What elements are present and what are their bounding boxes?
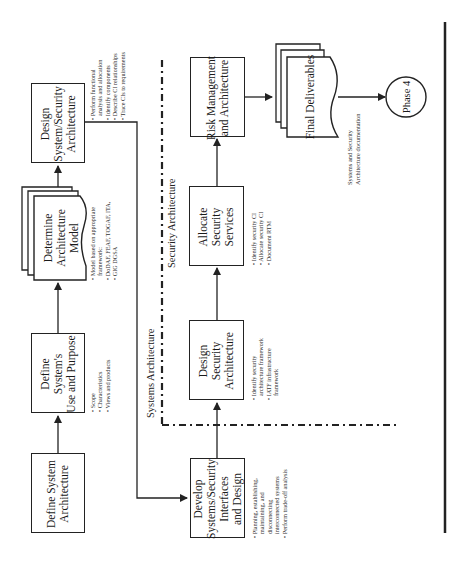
design-system-security-architecture-box: DesignSystem/SecurityArchitecture [31, 83, 85, 163]
final-deliverables-doc: Final Deliverables [290, 57, 330, 137]
note-item: • Identify components [104, 52, 111, 120]
define-system-architecture-label: Define SystemArchitecture [32, 454, 84, 534]
develop-interfaces-box: DevelopSystems/SecurityInterfacesand Des… [190, 458, 245, 538]
phase-4-node: Phase 4 [386, 77, 426, 117]
design-system-security-architecture-label: DesignSystem/SecurityArchitecture [32, 84, 84, 164]
determine-architecture-model-doc: DetermineArchitectureModel [38, 196, 84, 280]
note-item: • Describe CI relationships [111, 52, 118, 120]
design-security-architecture-label: DesignSecurityArchitecture [190, 321, 243, 401]
note-item: architecture framework [257, 338, 264, 400]
note-item: • IATF infrastructure [265, 338, 272, 400]
note-item: • Characteristics [96, 360, 103, 412]
allocate-services-notes: • Identify security CI • Allocate securi… [250, 212, 272, 265]
allocate-security-services-box: AllocateSecurityServices [189, 186, 244, 266]
final-deliverables-caption: Systems and Security Architecture docume… [346, 113, 361, 185]
systems-architecture-label: Systems Architecture [145, 328, 156, 418]
note-item: • DoDAF, FEAF, TOGAF, ITA, [104, 202, 111, 280]
risk-management-label: Risk Managementand Architecture [191, 58, 244, 138]
note-item: • Perform functional [89, 52, 96, 120]
note-item: framework [272, 338, 279, 400]
caption-line: Architecture documentation [354, 113, 362, 185]
note-item: • GIG DGSA [111, 202, 118, 280]
define-use-purpose-label: DefineSystem'sUse and Purpose [32, 334, 84, 414]
note-item: • Model based on appropriate [89, 202, 96, 280]
design-security-notes: • Identify security architecture framewo… [250, 338, 280, 400]
define-use-notes: • Scope • Characteristics • Views and pr… [89, 360, 111, 412]
note-item: analysis and allocation [96, 52, 103, 120]
note-item: interconnected systems [273, 469, 280, 538]
note-item: • Scope [89, 360, 96, 412]
note-item: • Identify security [250, 338, 257, 400]
note-item: framework: [96, 202, 103, 280]
note-item: maintaining, and [258, 469, 265, 538]
security-architecture-label: Security Architecture [166, 178, 177, 268]
allocate-security-services-label: AllocateSecurityServices [190, 187, 243, 267]
note-item: • Trace CIs to requirements [119, 52, 126, 120]
define-use-purpose-box: DefineSystem'sUse and Purpose [31, 333, 85, 413]
design-system-security-notes: • Perform functional analysis and alloca… [89, 52, 126, 120]
develop-interfaces-notes: • Planning, establishing, maintaining, a… [251, 469, 288, 538]
develop-interfaces-label: DevelopSystems/SecurityInterfacesand Des… [191, 459, 244, 539]
note-item: • Document RTM [265, 212, 272, 265]
note-item: • Identify security CI [250, 212, 257, 265]
risk-management-box: Risk Managementand Architecture [190, 57, 245, 137]
note-item: disconnecting [266, 469, 273, 538]
determine-architecture-model-label: DetermineArchitectureModel [38, 196, 84, 280]
caption-line: Systems and Security [346, 113, 354, 185]
note-item: • Planning, establishing, [251, 469, 258, 538]
note-item: • Allocate security CI [257, 212, 264, 265]
phase-4-label: Phase 4 [386, 77, 426, 117]
process-flow-diagram: Define SystemArchitecture DefineSystem's… [0, 0, 452, 583]
determine-model-notes: • Model based on appropriate framework: … [89, 202, 119, 280]
final-deliverables-label: Final Deliverables [290, 57, 330, 137]
note-item: • Perform trade-off analysis [281, 469, 288, 538]
design-security-architecture-box: DesignSecurityArchitecture [189, 320, 244, 400]
note-item: • Views and products [104, 360, 111, 412]
define-system-architecture-box: Define SystemArchitecture [31, 453, 85, 533]
